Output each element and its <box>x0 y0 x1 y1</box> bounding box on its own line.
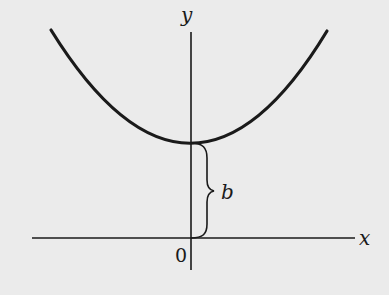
parabola-diagram: y x 0 b <box>0 0 389 295</box>
brace-b <box>191 143 214 238</box>
brace-label-b: b <box>221 180 234 204</box>
parabola-curve <box>51 30 327 143</box>
origin-label: 0 <box>175 244 187 266</box>
x-axis-label: x <box>359 226 370 250</box>
y-axis-label: y <box>180 3 193 27</box>
diagram-canvas: y x 0 b <box>0 0 389 295</box>
